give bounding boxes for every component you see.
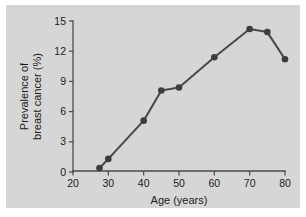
y-axis: 03691215 <box>54 15 73 178</box>
y-tick-label: 3 <box>60 135 66 147</box>
line-chart: 03691215 20304050607080 Age (years)Preva… <box>0 0 306 217</box>
y-tick-label: 0 <box>60 166 66 178</box>
x-tick-label: 60 <box>208 177 220 189</box>
x-axis: 20304050607080 <box>67 171 291 189</box>
figure-container: 03691215 20304050607080 Age (years)Preva… <box>0 0 306 217</box>
data-point-marker <box>176 84 183 91</box>
x-axis-title: Age (years) <box>151 194 208 206</box>
data-series <box>96 26 288 172</box>
x-tick-label: 80 <box>279 177 291 189</box>
data-point-marker <box>211 54 218 61</box>
data-point-marker <box>105 156 112 163</box>
x-tick-label: 70 <box>244 177 256 189</box>
x-tick-label: 30 <box>102 177 114 189</box>
data-point-marker <box>158 87 165 94</box>
data-point-marker <box>140 117 147 124</box>
series-line <box>100 29 286 168</box>
data-point-marker <box>282 56 289 63</box>
y-axis-title: Prevalence ofbreast cancer (%) <box>18 53 43 140</box>
y-tick-label: 12 <box>54 45 66 57</box>
data-point-marker <box>96 165 103 172</box>
data-point-marker <box>264 29 271 36</box>
data-point-marker <box>246 26 253 33</box>
x-tick-label: 20 <box>67 177 79 189</box>
y-tick-label: 9 <box>60 75 66 87</box>
x-tick-label: 40 <box>138 177 150 189</box>
y-tick-label: 6 <box>60 105 66 117</box>
y-tick-label: 15 <box>54 15 66 27</box>
x-tick-label: 50 <box>173 177 185 189</box>
